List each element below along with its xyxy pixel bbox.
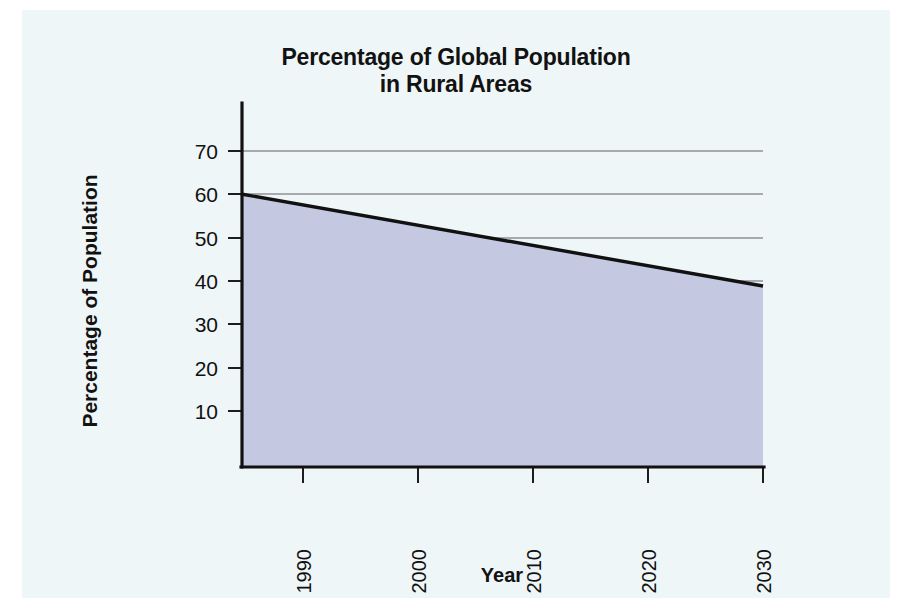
y-tick-labels: 70 60 50 40 30 20 10	[195, 140, 218, 423]
chart-plot-area: 70 60 50 40 30 20 10 1990 2000 2010 2020…	[22, 10, 890, 598]
y-tick-marks	[228, 151, 242, 411]
y-tick-label-20: 20	[195, 357, 218, 380]
y-tick-label-30: 30	[195, 313, 218, 336]
y-tick-label-70: 70	[195, 140, 218, 163]
y-tick-label-60: 60	[195, 183, 218, 206]
y-tick-label-50: 50	[195, 227, 218, 250]
y-tick-label-10: 10	[195, 400, 218, 423]
x-tick-marks	[303, 467, 763, 483]
y-tick-label-40: 40	[195, 270, 218, 293]
x-axis-title: Year	[241, 564, 763, 587]
series-area-fill	[241, 194, 763, 467]
chart-page-panel: Percentage of Global Population in Rural…	[22, 10, 890, 598]
